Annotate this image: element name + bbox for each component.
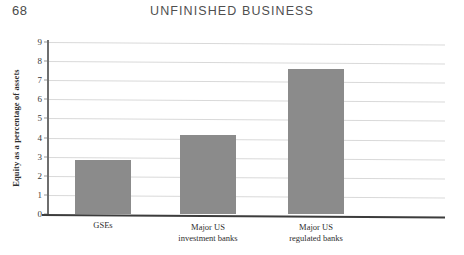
x-axis-category-label-line: regulated banks — [256, 233, 376, 244]
y-axis-tick-label: 8 — [38, 56, 43, 66]
bar-chart-figure: Equity as a percentage of assets 0123456… — [0, 30, 464, 255]
x-axis-category-label-line: investment banks — [148, 233, 268, 244]
plot-area: 0123456789 — [47, 42, 445, 214]
gridline — [47, 80, 445, 83]
y-axis-tick-label: 7 — [38, 75, 43, 85]
y-axis-tick-label: 3 — [38, 152, 43, 162]
x-axis-category-label-line: Major US — [148, 222, 268, 233]
y-axis-tick-label: 5 — [38, 113, 43, 123]
running-head-title: UNFINISHED BUSINESS — [0, 4, 464, 18]
y-axis-tick-label: 6 — [38, 94, 43, 104]
gridline — [47, 42, 445, 45]
x-axis-category-label: Major USinvestment banks — [148, 222, 268, 244]
gridline — [47, 99, 445, 102]
gridline — [47, 61, 445, 64]
x-axis-category-label: Major USregulated banks — [256, 222, 376, 244]
bar — [75, 160, 131, 214]
y-axis-tick-label: 4 — [38, 133, 43, 143]
x-axis-category-label: GSEs — [43, 220, 163, 231]
y-axis-line — [47, 40, 49, 215]
y-axis-tick-label: 1 — [38, 190, 43, 200]
y-axis-tick-label: 9 — [38, 37, 43, 47]
bar — [288, 69, 344, 214]
x-axis-labels-group: GSEsMajor USinvestment banksMajor USregu… — [47, 218, 447, 254]
y-axis-tick-label: 2 — [38, 171, 43, 181]
x-axis-category-label-line: Major US — [256, 222, 376, 233]
gridline — [47, 118, 445, 121]
bar — [180, 135, 236, 214]
x-axis-category-label-line: GSEs — [43, 220, 163, 231]
y-axis-title: Equity as a percentage of assets — [11, 38, 21, 218]
gridline — [47, 138, 445, 141]
